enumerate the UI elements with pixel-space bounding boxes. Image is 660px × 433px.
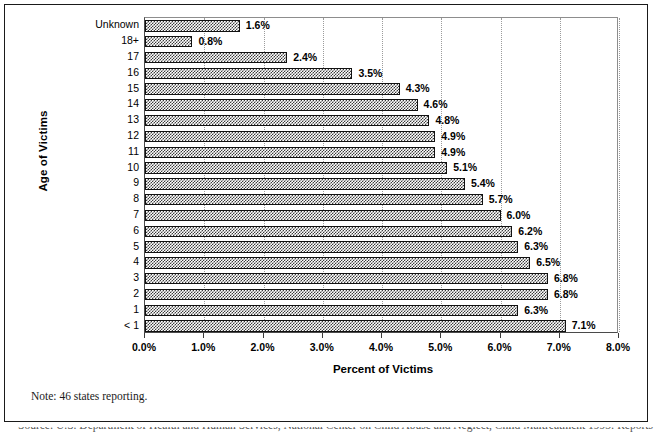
bar-row: 6.0% — [145, 210, 617, 222]
bar-value-label: 5.4% — [471, 178, 495, 189]
y-tick-label: 6 — [133, 225, 139, 236]
bar-value-label: 2.4% — [293, 52, 317, 63]
y-tick-label: 12 — [127, 130, 139, 141]
bar-value-label: 4.8% — [435, 115, 459, 126]
y-tick-label: 14 — [127, 98, 139, 109]
y-tick-label: < 1 — [124, 320, 139, 331]
chart-note: Note: 46 states reporting. — [31, 390, 147, 402]
bar-value-label: 6.3% — [524, 241, 548, 252]
bar-row: 0.8% — [145, 36, 617, 48]
y-tick-label: 8 — [133, 193, 139, 204]
bar-row: 4.9% — [145, 147, 617, 159]
bar-row: 7.1% — [145, 320, 617, 332]
bar-13 — [145, 115, 429, 127]
bar-row: 4.8% — [145, 115, 617, 127]
y-tick-label: 4 — [133, 256, 139, 267]
bar-value-label: 7.1% — [572, 320, 596, 331]
bar-11 — [145, 147, 435, 159]
y-axis-title: Age of Victims — [37, 91, 49, 211]
bars-layer: 1.6%0.8%2.4%3.5%4.3%4.6%4.8%4.9%4.9%5.1%… — [145, 18, 617, 332]
y-tick-label: 1 — [133, 304, 139, 315]
bar-value-label: 6.5% — [536, 257, 560, 268]
bar-row: 4.3% — [145, 83, 617, 95]
bar-14 — [145, 99, 418, 111]
bar-1 — [145, 305, 518, 317]
bar-3 — [145, 273, 548, 285]
x-tick-mark — [322, 333, 323, 338]
bar-row: 6.2% — [145, 226, 617, 238]
bar-row: 5.4% — [145, 178, 617, 190]
y-tick-label: 18+ — [121, 35, 139, 46]
bar-unknown — [145, 20, 240, 32]
bar-18- — [145, 36, 192, 48]
y-tick-label: 17 — [127, 51, 139, 62]
bar-value-label: 5.1% — [453, 162, 477, 173]
x-tick-mark — [381, 333, 382, 338]
y-tick-label: 3 — [133, 272, 139, 283]
bar-value-label: 6.3% — [524, 305, 548, 316]
y-tick-label: 10 — [127, 162, 139, 173]
bar-row: 1.6% — [145, 20, 617, 32]
bar-value-label: 0.8% — [198, 36, 222, 47]
y-tick-label: 13 — [127, 114, 139, 125]
bar-6 — [145, 226, 512, 238]
y-axis-tick-labels: Unknown18+1716151413121110987654321< 1 — [64, 17, 139, 333]
bar-value-label: 4.9% — [441, 147, 465, 158]
bar-value-label: 4.6% — [424, 99, 448, 110]
x-tick-label: 8.0% — [593, 341, 643, 353]
x-tick-mark — [263, 333, 264, 338]
bar-5 — [145, 241, 518, 253]
x-tick-mark — [144, 333, 145, 338]
bar-10 — [145, 162, 447, 174]
x-tick-label: 0.0% — [119, 341, 169, 353]
y-tick-label: 11 — [128, 146, 139, 157]
bar--1 — [145, 320, 566, 332]
bar-row: 2.4% — [145, 52, 617, 64]
bar-row: 6.8% — [145, 289, 617, 301]
x-tick-label: 6.0% — [475, 341, 525, 353]
bar-value-label: 3.5% — [358, 68, 382, 79]
bar-row: 6.5% — [145, 257, 617, 269]
x-tick-mark — [559, 333, 560, 338]
bar-value-label: 6.0% — [507, 210, 531, 221]
bar-value-label: 4.3% — [406, 83, 430, 94]
bar-value-label: 1.6% — [246, 20, 270, 31]
bar-2 — [145, 289, 548, 301]
y-tick-label: 16 — [127, 67, 139, 78]
bar-row: 5.7% — [145, 194, 617, 206]
x-tick-label: 5.0% — [415, 341, 465, 353]
bar-9 — [145, 178, 465, 190]
bar-value-label: 6.8% — [554, 289, 578, 300]
bar-row: 4.6% — [145, 99, 617, 111]
bar-value-label: 4.9% — [441, 131, 465, 142]
bar-8 — [145, 194, 483, 206]
bar-value-label: 6.8% — [554, 273, 578, 284]
y-tick-label: 15 — [127, 83, 139, 94]
x-tick-label: 1.0% — [178, 341, 228, 353]
y-tick-label: 7 — [133, 209, 139, 220]
figure-frame: Age of Victims Percent of Victims Unknow… — [4, 4, 648, 422]
x-tick-mark — [440, 333, 441, 338]
x-tick-mark — [203, 333, 204, 338]
bar-row: 3.5% — [145, 68, 617, 80]
plot-area: 1.6%0.8%2.4%3.5%4.3%4.6%4.8%4.9%4.9%5.1%… — [144, 17, 618, 333]
bar-15 — [145, 83, 400, 95]
bar-chart: Age of Victims Percent of Victims Unknow… — [5, 5, 649, 385]
y-tick-label: 9 — [133, 177, 139, 188]
x-tick-label: 3.0% — [297, 341, 347, 353]
bar-row: 6.3% — [145, 241, 617, 253]
y-tick-label: 2 — [133, 288, 139, 299]
x-tick-mark — [500, 333, 501, 338]
x-tick-label: 7.0% — [534, 341, 584, 353]
bar-row: 6.3% — [145, 305, 617, 317]
bar-12 — [145, 131, 435, 143]
y-tick-label: 5 — [133, 241, 139, 252]
x-axis-title: Percent of Victims — [144, 363, 622, 375]
source-citation-text: Source: U.S. Department of Health and Hu… — [18, 427, 653, 431]
bar-row: 4.9% — [145, 131, 617, 143]
bar-row: 6.8% — [145, 273, 617, 285]
x-tick-label: 2.0% — [238, 341, 288, 353]
source-citation: Source: U.S. Department of Health and Hu… — [0, 427, 660, 433]
gridline-8.0% — [619, 18, 620, 332]
bar-row: 5.1% — [145, 162, 617, 174]
